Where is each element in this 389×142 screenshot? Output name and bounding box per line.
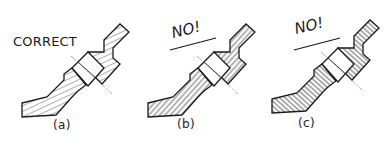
panel-b-drawing [148,24,255,117]
caption-b: (b) [177,117,195,131]
caption-a: (a) [53,118,71,132]
panel-c-drawing [272,20,379,113]
note-underline-c [294,38,340,50]
figure-stage: CORRECT NO! NO! (a) (b) (c) [0,0,389,142]
caption-c: (c) [298,116,315,130]
note-correct: CORRECT [13,34,77,49]
